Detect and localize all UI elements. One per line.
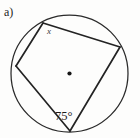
geometry-figure: ··· ···· ····· ··· ···· a) x 75°	[0, 0, 140, 138]
quad-side-left-top	[16, 23, 43, 66]
unknown-angle-label: x	[46, 26, 51, 36]
quad-side-right-bottom	[70, 47, 120, 131]
quad-side-top-right	[43, 23, 120, 47]
circle-quadrilateral-diagram: x 75°	[0, 0, 140, 138]
circle-center-dot	[67, 71, 71, 75]
known-angle-label: 75°	[55, 109, 73, 123]
